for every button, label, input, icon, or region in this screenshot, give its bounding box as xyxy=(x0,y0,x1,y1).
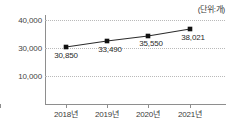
x-axis-line xyxy=(45,104,226,105)
y-axis-labels: 40,000 30,000 10,000 xyxy=(0,0,42,129)
x-axis-label-2021: 2021년 xyxy=(178,108,202,119)
plot-area xyxy=(45,16,225,104)
gridline-40000 xyxy=(45,20,225,21)
data-label-2020: 35,550 xyxy=(139,39,162,48)
data-label-2018: 30,850 xyxy=(54,51,77,60)
unit-caption: (단위:개) xyxy=(198,3,225,14)
x-tick-2020 xyxy=(0,104,1,108)
gridline-10000 xyxy=(45,76,225,77)
data-label-2019: 33,490 xyxy=(98,45,121,54)
x-axis-label-2018: 2018년 xyxy=(54,108,78,119)
y-tick-label-10000: 10,000 xyxy=(18,72,42,81)
x-axis-label-2020: 2020년 xyxy=(136,108,160,119)
y-tick-label-40000: 40,000 xyxy=(18,16,42,25)
line-chart: (단위:개) 40,000 30,000 10,000 2018년 2019년 … xyxy=(0,0,229,129)
x-axis-label-2019: 2019년 xyxy=(95,108,119,119)
gridline-30000 xyxy=(45,48,225,49)
y-tick-label-30000: 30,000 xyxy=(18,44,42,53)
data-label-2021: 38,021 xyxy=(181,33,204,42)
